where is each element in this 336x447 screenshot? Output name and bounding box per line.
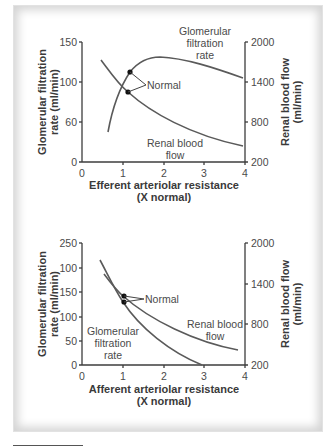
tick-label: 1 <box>120 167 126 179</box>
svg-text:Afferent arteriolar resistance: Afferent arteriolar resistance <box>89 383 239 395</box>
right-tick-labels: 2000 1400 800 200 <box>251 36 275 168</box>
tick-label: 100 <box>59 76 77 88</box>
x-axis-title: Efferent arteriolar resistance (X normal… <box>89 179 239 203</box>
gfr-series-label: Glomerular filtration rate <box>87 325 139 361</box>
svg-text:rate: rate <box>104 349 122 361</box>
tick-label: 200 <box>251 359 269 371</box>
tick-label: 250 <box>59 237 77 249</box>
svg-text:Renal blood flow: Renal blood flow <box>279 260 291 348</box>
tick-label: 4 <box>242 167 248 179</box>
svg-text:Renal blood: Renal blood <box>147 137 203 149</box>
tick-label: 60 <box>65 116 77 128</box>
gfr-series-label: Glomerular filtration rate <box>179 25 231 61</box>
right-y-axis-title: Renal blood flow (ml/min) <box>279 260 303 348</box>
tick-label: 800 <box>251 318 269 330</box>
normal-label: Normal <box>147 79 181 91</box>
tick-label: 0 <box>71 359 77 371</box>
svg-text:Glomerular: Glomerular <box>87 325 139 337</box>
svg-text:(ml/min): (ml/min) <box>291 282 303 325</box>
tick-label: 50 <box>65 335 77 347</box>
rbf-series-label: Renal blood flow <box>147 137 203 161</box>
tick-label: 150 <box>59 36 77 48</box>
svg-text:Renal blood flow: Renal blood flow <box>279 58 291 146</box>
normal-leader-lines <box>128 72 146 92</box>
svg-text:rate (ml/min): rate (ml/min) <box>48 69 60 135</box>
right-tick-labels: 2000 1400 800 200 <box>251 237 275 371</box>
chart-afferent: 250 100 150 100 50 0 2000 1400 800 200 0… <box>36 237 303 407</box>
x-tick-labels: 0 1 2 3 4 <box>79 370 248 382</box>
svg-text:(ml/min): (ml/min) <box>291 80 303 123</box>
svg-text:rate: rate <box>196 49 214 61</box>
x-tick-labels: 0 1 2 3 4 <box>79 167 248 179</box>
tick-label: 150 <box>59 286 77 298</box>
svg-text:Glomerular: Glomerular <box>179 25 231 37</box>
normal-label: Normal <box>145 293 179 305</box>
tick-label: 200 <box>251 156 269 168</box>
svg-text:Glomerular filtration: Glomerular filtration <box>36 49 48 155</box>
svg-text:Glomerular filtration: Glomerular filtration <box>36 251 48 357</box>
tick-label: 2000 <box>251 36 275 48</box>
tick-label: 3 <box>201 370 207 382</box>
tick-label: 1400 <box>251 76 275 88</box>
tick-label: 2000 <box>251 237 275 249</box>
svg-text:filtration: filtration <box>95 337 132 349</box>
tick-label: 0 <box>79 370 85 382</box>
tick-label: 3 <box>201 167 207 179</box>
tick-label: 0 <box>79 167 85 179</box>
svg-text:flow: flow <box>206 330 225 342</box>
normal-point-rbf <box>125 89 130 94</box>
svg-text:(X normal): (X normal) <box>137 191 192 203</box>
svg-text:filtration: filtration <box>187 37 224 49</box>
x-axis-title: Afferent arteriolar resistance (X normal… <box>89 383 239 407</box>
left-y-axis-title: Glomerular filtration rate (ml/min) <box>36 49 60 155</box>
tick-label: 2 <box>161 167 167 179</box>
svg-text:flow: flow <box>166 149 185 161</box>
left-y-axis-title: Glomerular filtration rate (ml/min) <box>36 251 60 357</box>
chart-efferent: 150 100 60 0 2000 1400 800 200 0 1 2 3 4… <box>36 25 303 203</box>
right-y-axis-title: Renal blood flow (ml/min) <box>279 58 303 146</box>
tick-label: 4 <box>242 370 248 382</box>
tick-label: 1 <box>120 370 126 382</box>
tick-label: 800 <box>251 116 269 128</box>
svg-text:rate (ml/min): rate (ml/min) <box>48 271 60 337</box>
svg-text:(X normal): (X normal) <box>137 395 192 407</box>
left-tick-labels: 150 100 60 0 <box>59 36 77 168</box>
figure-canvas: 150 100 60 0 2000 1400 800 200 0 1 2 3 4… <box>0 0 336 447</box>
left-tick-labels: 250 100 150 100 50 0 <box>59 237 77 371</box>
tick-label: 1400 <box>251 278 275 290</box>
tick-label: 100 <box>59 311 77 323</box>
tick-label: 0 <box>71 156 77 168</box>
svg-text:Efferent arteriolar resistance: Efferent arteriolar resistance <box>89 179 239 191</box>
svg-text:Renal blood: Renal blood <box>187 318 243 330</box>
rbf-curve <box>101 60 243 146</box>
tick-label: 2 <box>161 370 167 382</box>
tick-label: 100 <box>59 262 77 274</box>
